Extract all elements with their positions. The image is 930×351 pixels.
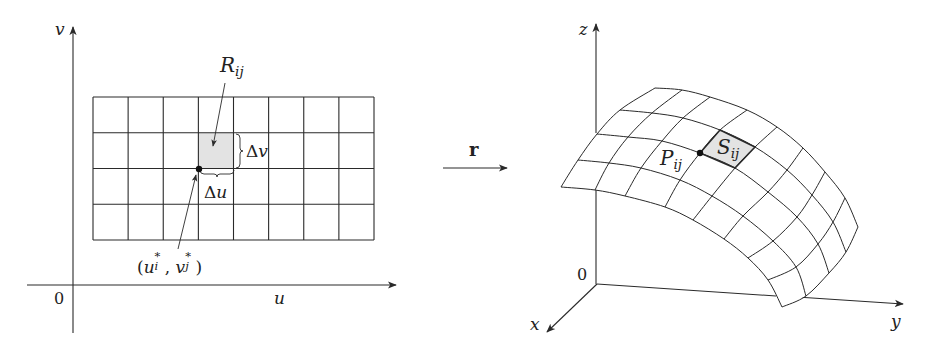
delta-u-variable: u (216, 182, 227, 202)
region-rij-subscript: ij (235, 63, 244, 79)
point-pij-subscript: ij (673, 156, 682, 172)
patch-sij-subscript: ij (731, 145, 740, 161)
point-pij-dot (697, 150, 703, 156)
y-axis-left (597, 284, 776, 296)
delta-v-variable: v (258, 141, 268, 161)
delta-u-symbol: Δ (204, 182, 216, 202)
xyz-space-panel (547, 24, 903, 332)
x-axis (547, 284, 597, 332)
sample-point-label: (u*i, v*j) (137, 256, 202, 276)
surface-fill (561, 88, 858, 307)
v-star-scripts: *j (185, 256, 195, 273)
region-rij-main: R (220, 53, 235, 77)
figure: v 0 u Rij Δv Δu (u*i, v*j) r z 0 x y Pij… (0, 0, 930, 351)
v-axis-label: v (55, 21, 65, 38)
mapping-label-r: r (469, 141, 478, 159)
diagram-canvas (0, 0, 930, 351)
v-subscript: j (185, 261, 189, 273)
patch-sij-main: S (717, 135, 731, 159)
u-star-scripts: *i (155, 256, 165, 273)
u-axis-label: u (274, 290, 285, 307)
y-axis-right (797, 297, 903, 304)
left-origin-label: 0 (54, 291, 64, 307)
comma: , (165, 257, 176, 277)
paren-open: ( (137, 257, 144, 277)
parametric-surface (561, 88, 858, 307)
delta-v-label: Δv (246, 143, 268, 160)
paren-close: ) (195, 257, 202, 277)
point-pij-label: Pij (660, 148, 682, 168)
sample-point-pointer-arrow (178, 175, 196, 249)
x-axis-label: x (530, 316, 540, 333)
y-axis-label: y (891, 313, 901, 330)
delta-v-symbol: Δ (246, 141, 258, 161)
delta-v-brace (236, 134, 243, 168)
patch-sij-label: Sij (717, 137, 739, 157)
sample-point-dot (196, 166, 202, 172)
region-rij-label: Rij (220, 55, 244, 75)
region-rij-shaded-cell (198, 133, 233, 169)
uv-grid (93, 97, 374, 240)
z-axis-label: z (579, 22, 587, 38)
u-subscript: i (155, 261, 159, 273)
u-star-var: u (144, 257, 155, 277)
delta-u-label: Δu (204, 184, 227, 201)
delta-u-brace (200, 170, 234, 177)
right-origin-label: 0 (577, 267, 587, 283)
point-pij-main: P (660, 146, 673, 170)
uv-plane-panel (27, 27, 396, 333)
v-star-var: v (176, 257, 186, 277)
